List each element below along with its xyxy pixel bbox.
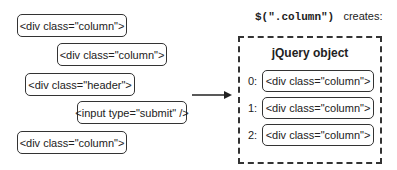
jquery-item-1: <div class="column"> bbox=[262, 97, 374, 119]
index-2: 2: bbox=[248, 129, 257, 141]
arrow-icon bbox=[192, 90, 232, 100]
index-0: 0: bbox=[248, 75, 257, 87]
index-1: 1: bbox=[248, 102, 257, 114]
element-input-submit: <input type="submit" /> bbox=[77, 101, 187, 124]
element-div-header: <div class="header"> bbox=[25, 73, 135, 96]
jquery-item-0: <div class="column"> bbox=[262, 70, 374, 92]
jquery-item-2: <div class="column"> bbox=[262, 124, 374, 146]
jquery-object-container: jQuery object 0: <div class="column"> 1:… bbox=[238, 36, 382, 164]
selector-text: creates: bbox=[343, 10, 382, 22]
selector-code: $(".column") bbox=[255, 11, 334, 23]
selector-caption: $(".column") creates: bbox=[255, 10, 383, 23]
element-div-column-1: <div class="column"> bbox=[17, 14, 127, 37]
element-div-column-2: <div class="column"> bbox=[57, 43, 167, 66]
element-div-column-3: <div class="column"> bbox=[17, 131, 127, 154]
jquery-object-title: jQuery object bbox=[240, 46, 380, 60]
